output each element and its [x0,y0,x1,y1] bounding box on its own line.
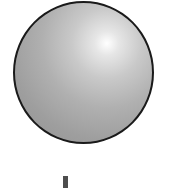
shaded-sphere [13,1,154,144]
vertical-marker [63,176,68,188]
